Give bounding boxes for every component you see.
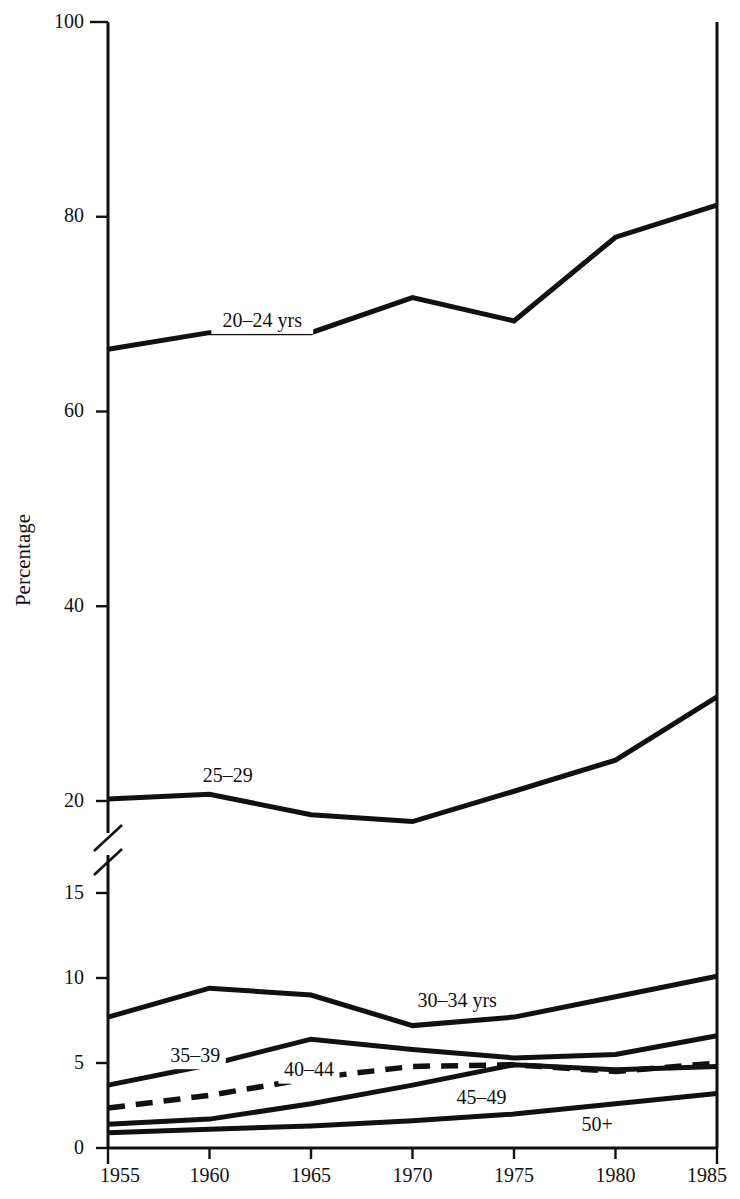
y-tick-label: 60 bbox=[64, 399, 84, 421]
series-label-35-39: 35–39 bbox=[170, 1044, 220, 1066]
y-tick-label: 80 bbox=[64, 204, 84, 226]
y-tick-label: 5 bbox=[74, 1051, 84, 1073]
series-label-45-49: 45–49 bbox=[457, 1086, 507, 1108]
y-tick-label: 100 bbox=[54, 10, 84, 32]
x-tick-label: 1960 bbox=[190, 1164, 230, 1186]
chart-figure: 10080604020151050 1955196019651970197519… bbox=[0, 0, 740, 1199]
y-tick-label: 15 bbox=[64, 881, 84, 903]
y-tick-label: 40 bbox=[64, 594, 84, 616]
x-tick-label: 1965 bbox=[291, 1164, 331, 1186]
y-tick-label: 20 bbox=[64, 789, 84, 811]
series-label-25-29: 25–29 bbox=[203, 764, 253, 786]
y-axis-title: Percentage bbox=[11, 514, 35, 606]
series-label-20-24-yrs: 20–24 yrs bbox=[223, 309, 303, 332]
chart-background bbox=[0, 0, 740, 1199]
y-tick-label: 0 bbox=[74, 1136, 84, 1158]
series-label-40-44: 40–44 bbox=[284, 1058, 334, 1080]
y-tick-label: 10 bbox=[64, 966, 84, 988]
x-tick-label: 1975 bbox=[494, 1164, 534, 1186]
x-tick-label: 1955 bbox=[100, 1164, 140, 1186]
line-chart: 10080604020151050 1955196019651970197519… bbox=[0, 0, 740, 1199]
x-axis-tick-labels: 1955196019651970197519801985 bbox=[100, 1164, 727, 1186]
x-tick-label: 1980 bbox=[596, 1164, 636, 1186]
x-tick-label: 1970 bbox=[393, 1164, 433, 1186]
series-label-30-34-yrs: 30–34 yrs bbox=[417, 989, 497, 1012]
x-tick-label: 1985 bbox=[687, 1164, 727, 1186]
series-label-50: 50+ bbox=[582, 1113, 613, 1135]
